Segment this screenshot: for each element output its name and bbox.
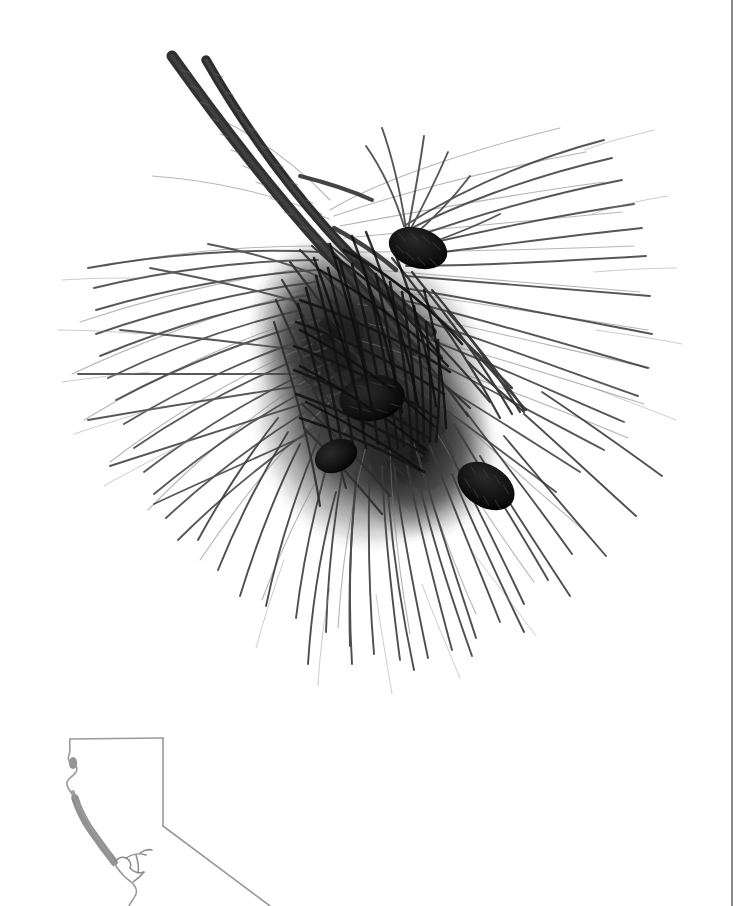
- northern-border: [70, 738, 163, 739]
- specimen-photograph: Black and white photograph of a pine bra…: [0, 0, 731, 730]
- distribution-map: California distribution map California P…: [40, 722, 340, 906]
- california-outline-svg: [40, 722, 340, 906]
- specimen-sheet-page: Pine branch specimen with California dis…: [0, 0, 748, 906]
- specimen-illustration: [0, 0, 731, 730]
- sheet-right-border-rule: [731, 0, 733, 906]
